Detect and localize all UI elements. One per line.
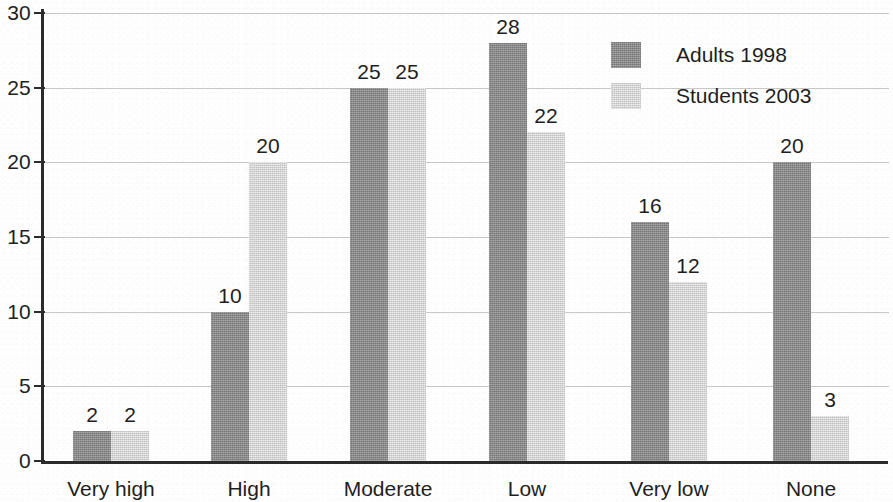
x-axis-category-label: Low <box>449 478 605 499</box>
bar <box>249 162 287 461</box>
bar <box>669 282 707 461</box>
bar-value-label: 20 <box>249 135 287 156</box>
gridline <box>44 13 889 14</box>
x-axis-category-label: None <box>733 478 889 499</box>
y-axis-tick-label: 30 <box>7 2 31 23</box>
legend-label-adults-1998: Adults 1998 <box>676 44 787 65</box>
bar-value-label: 20 <box>773 135 811 156</box>
y-axis-tick-label: 5 <box>19 375 31 396</box>
bar <box>631 222 669 461</box>
y-axis-tick-label: 0 <box>19 450 31 471</box>
legend-swatch-students-2003 <box>611 83 641 109</box>
bar <box>111 431 149 461</box>
bar <box>211 312 249 461</box>
bar <box>388 88 426 461</box>
y-axis-tick-label: 10 <box>7 301 31 322</box>
y-axis-tick-label: 15 <box>7 226 31 247</box>
gridline <box>44 312 889 313</box>
gridline <box>44 237 889 238</box>
y-axis-tick-mark <box>34 385 45 387</box>
bar-chart: 221020252528221612203 051015202530 Very … <box>0 0 893 502</box>
y-axis-tick-mark <box>34 12 45 14</box>
x-axis-category-label: Moderate <box>310 478 466 499</box>
y-axis-tick-mark <box>34 236 45 238</box>
y-axis-tick-mark <box>34 460 45 462</box>
bar-value-label: 2 <box>111 404 149 425</box>
bar-value-label: 28 <box>489 16 527 37</box>
legend-item-adults-1998: Adults 1998 <box>611 34 811 75</box>
y-axis-tick-mark <box>34 161 45 163</box>
gridline <box>44 162 889 163</box>
legend-swatch-adults-1998 <box>611 42 641 68</box>
legend: Adults 1998 Students 2003 <box>611 34 811 116</box>
y-axis-tick-label: 20 <box>7 151 31 172</box>
bar-value-label: 12 <box>669 255 707 276</box>
bar <box>489 43 527 461</box>
bar-value-label: 2 <box>73 404 111 425</box>
bar <box>527 132 565 461</box>
bar <box>773 162 811 461</box>
x-axis-category-label: Very low <box>591 478 747 499</box>
bar-value-label: 10 <box>211 285 249 306</box>
x-axis-category-label: Very high <box>33 478 189 499</box>
gridline <box>44 386 889 387</box>
legend-item-students-2003: Students 2003 <box>611 75 811 116</box>
bar-value-label: 16 <box>631 195 669 216</box>
y-axis-tick-label: 25 <box>7 77 31 98</box>
bar-value-label: 25 <box>388 61 426 82</box>
y-axis-tick-mark <box>34 311 45 313</box>
bar-value-label: 3 <box>811 389 849 410</box>
bar-value-label: 22 <box>527 105 565 126</box>
bar-value-label: 25 <box>350 61 388 82</box>
bar <box>350 88 388 461</box>
legend-label-students-2003: Students 2003 <box>676 85 811 106</box>
y-axis-tick-mark <box>34 87 45 89</box>
bar <box>811 416 849 461</box>
x-axis-line <box>41 461 888 464</box>
bar <box>73 431 111 461</box>
x-axis-category-label: High <box>171 478 327 499</box>
